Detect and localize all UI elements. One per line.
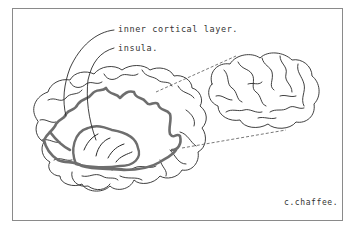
brain-illustration: [0, 0, 354, 230]
insula-outline: [73, 126, 139, 167]
artist-signature: c.chaffee.: [284, 198, 338, 207]
left-brain-outline: [34, 66, 207, 192]
leader-lines: [64, 30, 114, 140]
label-insula: insula.: [118, 43, 158, 53]
right-brain-detail: [209, 53, 319, 128]
leader-line-inner-cortical-layer: [64, 30, 114, 116]
label-inner-cortical-layer: inner cortical layer.: [118, 24, 238, 34]
